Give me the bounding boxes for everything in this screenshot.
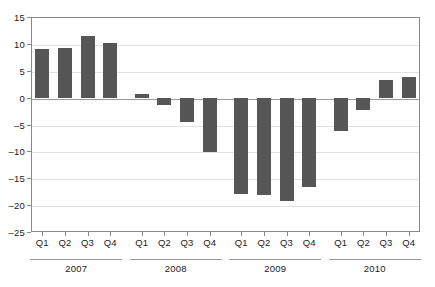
x-axis-tick-mark [164,232,165,236]
bar [379,80,393,97]
year-group-rule [30,259,122,260]
y-axis: 151050–5–10–15–20–25 [0,0,25,287]
x-axis-tick-label: Q2 [257,237,270,248]
y-axis-tick-mark [27,178,31,179]
y-axis-tick-mark [27,98,31,99]
x-axis-tick-mark [187,232,188,236]
x-axis-tick-label: Q4 [203,237,216,248]
y-axis-tick-label: 15 [14,12,25,23]
bar [81,36,95,97]
bar-chart: 151050–5–10–15–20–25 Q1Q2Q3Q4Q1Q2Q3Q4Q1Q… [0,0,435,287]
bar [157,98,171,106]
bar [257,98,271,196]
bar [280,98,294,201]
y-axis-tick-label: 5 [20,65,25,76]
y-axis-tick-mark [27,44,31,45]
bar [35,49,49,97]
y-axis-tick-mark [27,17,31,18]
x-axis-tick-mark [287,232,288,236]
x-axis-tick-mark [309,232,310,236]
bar [103,43,117,97]
y-axis-tick-label: –20 [9,200,25,211]
x-axis-tick-mark [241,232,242,236]
x-axis-tick-mark [42,232,43,236]
y-axis-tick-label: –10 [9,146,25,157]
y-axis-tick-mark [27,71,31,72]
bar [302,98,316,187]
x-axis-tick-mark [142,232,143,236]
bars-group [31,17,420,232]
bar [135,94,149,98]
bar [334,98,348,131]
bar [58,48,72,98]
bar [180,98,194,123]
x-axis-tick-label: Q4 [402,237,415,248]
year-group-rule [229,259,321,260]
y-axis-tick-label: 10 [14,38,25,49]
y-axis-tick-label: –5 [14,119,25,130]
y-axis-tick-label: –15 [9,173,25,184]
x-axis-tick-mark [264,232,265,236]
x-axis-tick-mark [386,232,387,236]
x-axis-tick-label: Q3 [280,237,293,248]
x-axis-tick-label: Q4 [104,237,117,248]
x-axis-tick-label: Q2 [158,237,171,248]
y-axis-tick-mark [27,151,31,152]
year-group-rule [329,259,421,260]
y-axis-tick-label: 0 [20,92,25,103]
x-axis-tick-label: Q3 [380,237,393,248]
x-axis-tick-mark [409,232,410,236]
x-axis-tick-label: Q3 [181,237,194,248]
year-group-label: 2007 [65,263,87,274]
x-axis-tick-mark [341,232,342,236]
bar [203,98,217,153]
x-axis-tick-mark [88,232,89,236]
y-axis-tick-mark [27,232,31,233]
year-group-label: 2010 [364,263,386,274]
x-axis-tick-label: Q1 [235,237,248,248]
x-axis-tick-mark [65,232,66,236]
x-axis-tick-mark [363,232,364,236]
x-axis-tick-label: Q1 [334,237,347,248]
y-axis-tick-mark [27,205,31,206]
x-axis-tick-mark [110,232,111,236]
bar [234,98,248,195]
x-axis-tick-label: Q2 [58,237,71,248]
y-axis-tick-label: –25 [9,227,25,238]
x-axis-tick-label: Q1 [135,237,148,248]
year-group-label: 2009 [264,263,286,274]
bar [402,77,416,98]
y-axis-tick-mark [27,125,31,126]
year-group-rule [130,259,222,260]
x-axis-tick-label: Q4 [303,237,316,248]
x-axis-tick-label: Q1 [36,237,49,248]
bar [356,98,370,110]
x-axis-tick-mark [210,232,211,236]
x-axis-tick-label: Q3 [81,237,94,248]
x-axis-tick-label: Q2 [357,237,370,248]
year-group-label: 2008 [165,263,187,274]
